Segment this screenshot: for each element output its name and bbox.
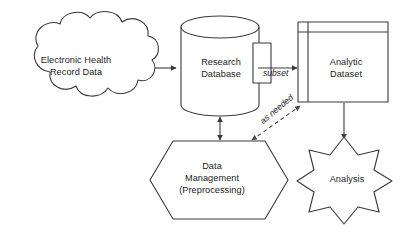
- hexagon-shape-data-management: [150, 141, 288, 219]
- star-shape-analysis: [297, 137, 392, 224]
- table-shape-analytic-dataset: [298, 22, 388, 102]
- edge-management-to-analytic: [252, 106, 300, 140]
- subset-extract-marker: [253, 43, 271, 83]
- cylinder-shape-database: [181, 16, 259, 116]
- flow-diagram-canvas: Electronic Health Record Data Research D…: [0, 0, 402, 235]
- cloud-shape-ehr: [34, 12, 158, 96]
- diagram-vector-layer: [0, 0, 402, 235]
